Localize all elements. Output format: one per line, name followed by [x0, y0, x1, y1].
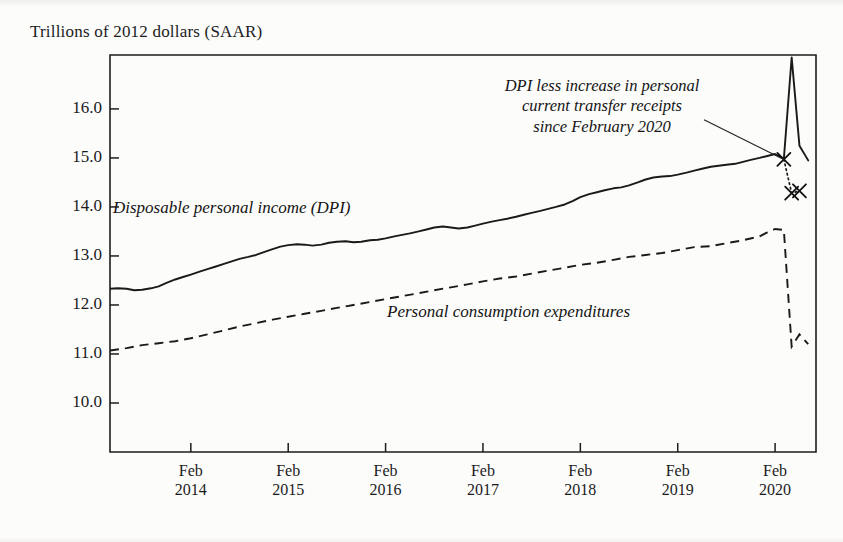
x-tick-month: Feb: [179, 462, 203, 479]
series-line-pce: [110, 229, 808, 351]
annotation-line-1: DPI less increase in personal: [505, 76, 700, 95]
x-tick-month: Feb: [666, 462, 690, 479]
chart-figure: Trillions of 2012 dollars (SAAR) 16.0 15…: [0, 0, 843, 542]
x-tick-label-2014: Feb 2014: [146, 462, 236, 500]
y-tick-label-15: 15.0: [42, 147, 102, 167]
x-tick-year: 2016: [370, 481, 402, 498]
x-axis-ticks: [191, 443, 775, 452]
y-tick-label-12: 12.0: [42, 294, 102, 314]
x-tick-month: Feb: [763, 462, 787, 479]
series-label-dpi: Disposable personal income (DPI): [113, 198, 351, 218]
x-tick-label-2020: Feb 2020: [730, 462, 820, 500]
x-tick-label-2019: Feb 2019: [633, 462, 723, 500]
x-tick-year: 2018: [564, 481, 596, 498]
annotation-line-2: current transfer receipts: [522, 96, 682, 115]
x-tick-label-2017: Feb 2017: [438, 462, 528, 500]
annotation-line-3: since February 2020: [533, 117, 670, 136]
x-tick-label-2015: Feb 2015: [243, 462, 333, 500]
x-tick-month: Feb: [374, 462, 398, 479]
x-tick-month: Feb: [276, 462, 300, 479]
x-tick-year: 2015: [272, 481, 304, 498]
x-tick-year: 2020: [759, 481, 791, 498]
x-tick-label-2018: Feb 2018: [535, 462, 625, 500]
data-point-markers: [777, 153, 806, 200]
x-tick-year: 2019: [662, 481, 694, 498]
y-tick-label-13: 13.0: [42, 245, 102, 265]
series-label-pce: Personal consumption expenditures: [387, 302, 630, 322]
x-tick-year: 2017: [467, 481, 499, 498]
y-tick-label-14: 14.0: [42, 196, 102, 216]
x-tick-year: 2014: [175, 481, 207, 498]
x-tick-label-2016: Feb 2016: [341, 462, 431, 500]
annotation-transfer-receipts: DPI less increase in personal current tr…: [452, 76, 752, 137]
x-tick-month: Feb: [568, 462, 592, 479]
y-tick-label-16: 16.0: [42, 98, 102, 118]
y-axis-ticks: [110, 109, 119, 403]
x-tick-month: Feb: [471, 462, 495, 479]
y-tick-label-10: 10.0: [42, 392, 102, 412]
y-tick-label-11: 11.0: [42, 343, 102, 363]
